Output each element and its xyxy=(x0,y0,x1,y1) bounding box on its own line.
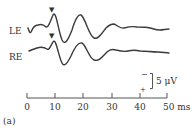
scale-bar-bracket xyxy=(150,74,153,89)
tick-label-40: 40 xyxy=(134,102,146,112)
evoked-potential-figure: LE RE ▼ ▼ − + 5 μV 0 10 20 30 40 50 ms (… xyxy=(0,0,192,130)
scale-plus-sign: + xyxy=(140,86,146,94)
marker-le-icon: ▼ xyxy=(49,6,55,14)
tick-label-0: 0 xyxy=(24,102,30,112)
scale-bar-label: 5 μV xyxy=(156,76,177,86)
tick-label-10: 10 xyxy=(49,102,61,112)
scale-minus-sign: − xyxy=(141,70,148,79)
marker-re-icon: ▼ xyxy=(49,32,55,40)
time-axis-ticks xyxy=(27,93,167,98)
tick-label-50-ms: 50 ms xyxy=(163,102,191,112)
panel-label: (a) xyxy=(3,116,15,126)
tick-label-20: 20 xyxy=(77,102,89,112)
series-label-le: LE xyxy=(9,26,22,36)
tick-label-30: 30 xyxy=(106,102,118,112)
series-label-re: RE xyxy=(9,52,22,62)
trace-re xyxy=(29,41,169,65)
